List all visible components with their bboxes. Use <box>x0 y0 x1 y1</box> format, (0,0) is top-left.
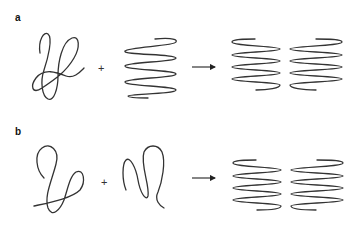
diagram-canvas <box>0 0 359 228</box>
panel-a-product-helix-right <box>290 39 342 90</box>
panel-b-product-helix-right <box>291 160 343 210</box>
panel-a-product-helix-left <box>232 39 280 90</box>
panel-a-random-coil <box>33 33 84 99</box>
panel-b-random-coil-1 <box>34 146 83 213</box>
panel-a-helix <box>125 38 176 98</box>
panel-b-random-coil-2 <box>123 146 164 208</box>
panel-b-product-helix-left <box>233 160 281 210</box>
